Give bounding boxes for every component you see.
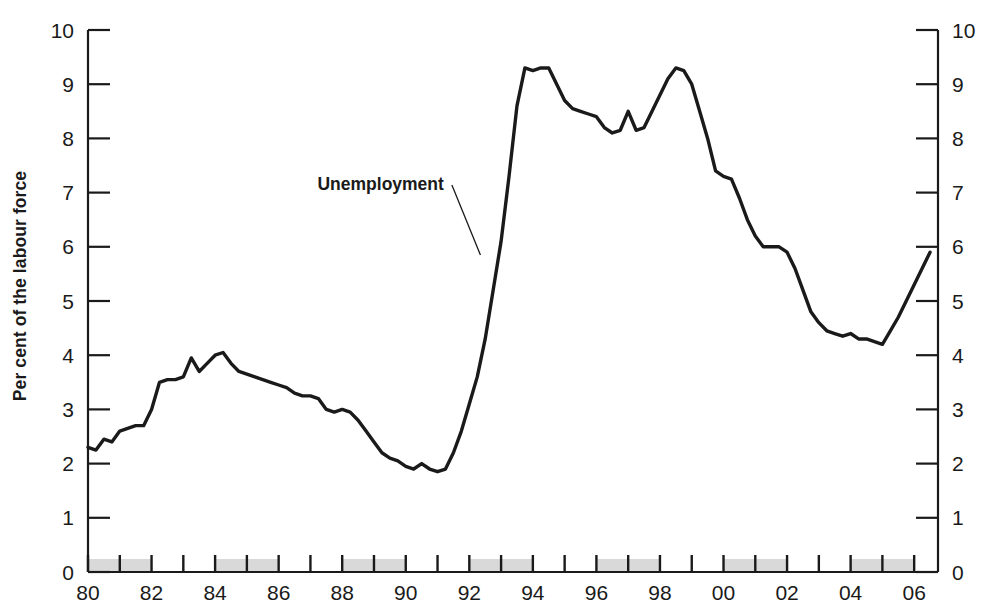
x-axis-ticks <box>88 555 914 572</box>
y-axis-left-ticks <box>88 84 110 572</box>
y-axis-tick-label-right: 10 <box>952 19 975 42</box>
y-axis-tick-label-left: 1 <box>62 506 74 529</box>
x-axis-tick-label: 82 <box>140 581 163 604</box>
y-axis-right-labels: 012345678910 <box>952 19 975 584</box>
x-axis-tick-label: 86 <box>267 581 290 604</box>
x-axis-tick-label: 00 <box>712 581 735 604</box>
x-axis-tick-label: 94 <box>521 581 545 604</box>
unemployment-chart: 012345678910 012345678910 80828486889092… <box>0 0 998 611</box>
x-axis-tick-label: 80 <box>76 581 99 604</box>
y-axis-tick-label-left: 7 <box>62 181 74 204</box>
y-axis-tick-label-right: 3 <box>952 398 964 421</box>
y-axis-tick-label-left: 9 <box>62 73 74 96</box>
x-axis-tick-label: 96 <box>585 581 608 604</box>
y-axis-tick-label-left: 0 <box>62 561 74 584</box>
y-axis-tick-label-left: 6 <box>62 235 74 258</box>
y-axis-right-ticks <box>916 84 938 572</box>
y-axis-tick-label-right: 2 <box>952 452 964 475</box>
x-axis-tick-label: 84 <box>203 581 227 604</box>
y-axis-tick-label-right: 4 <box>952 344 964 367</box>
chart-canvas: 012345678910 012345678910 80828486889092… <box>0 0 998 611</box>
annotation-group: Unemployment <box>317 174 480 255</box>
y-axis-tick-label-left: 3 <box>62 398 74 421</box>
x-axis-tick-label: 92 <box>458 581 481 604</box>
y-axis-tick-label-right: 1 <box>952 506 964 529</box>
y-axis-tick-label-right: 7 <box>952 181 964 204</box>
y-axis-tick-label-right: 0 <box>952 561 964 584</box>
y-axis-tick-label-left: 5 <box>62 290 74 313</box>
x-axis-tick-label: 04 <box>839 581 863 604</box>
y-axis-tick-label-left: 10 <box>51 19 74 42</box>
x-axis-tick-label: 02 <box>775 581 798 604</box>
y-axis-tick-label-right: 8 <box>952 127 964 150</box>
y-axis-tick-label-left: 2 <box>62 452 74 475</box>
y-axis-tick-label-left: 4 <box>62 344 74 367</box>
x-axis-tick-label: 06 <box>902 581 925 604</box>
series-line-unemployment <box>88 68 930 472</box>
annotation-label-unemployment: Unemployment <box>317 174 444 194</box>
y-axis-tick-label-right: 5 <box>952 290 964 313</box>
y-axis-tick-label-right: 9 <box>952 73 964 96</box>
plot-frame <box>88 30 938 572</box>
y-axis-left-labels: 012345678910 <box>51 19 75 584</box>
x-axis-tick-label: 88 <box>331 581 354 604</box>
annotation-leader-line <box>452 185 481 255</box>
x-axis-tick-label: 98 <box>648 581 671 604</box>
data-series-group <box>88 68 930 472</box>
x-axis-tick-label: 90 <box>394 581 417 604</box>
y-axis-title: Per cent of the labour force <box>10 171 30 402</box>
y-axis-tick-label-right: 6 <box>952 235 964 258</box>
x-axis-labels: 8082848688909294969800020406 <box>76 581 926 604</box>
y-axis-tick-label-left: 8 <box>62 127 74 150</box>
